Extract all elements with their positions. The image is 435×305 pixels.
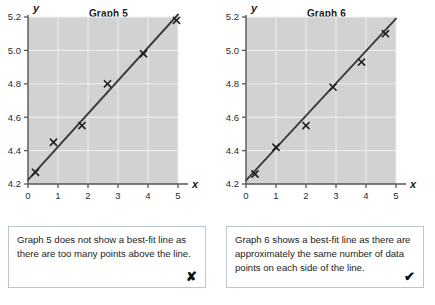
x-tick-label: 3 [333, 190, 338, 200]
x-axis-label: x [191, 178, 199, 190]
x-tick-label: 1 [55, 190, 60, 200]
x-tick-label: 0 [25, 190, 30, 200]
x-axis-label: x [409, 178, 417, 190]
y-tick-label: 4.2 [226, 178, 239, 189]
graph-5-caption-text: Graph 5 does not show a best-fit line as… [17, 233, 197, 261]
x-tick-label: 2 [303, 190, 308, 200]
x-tick-label: 2 [85, 190, 90, 200]
graph-6-chart: 4.24.44.64.85.05.2012345yx [218, 0, 435, 200]
x-tick-label: 1 [273, 190, 278, 200]
worksheet-page: Graph 5 4.24.44.64.85.05.2012345yx Graph… [0, 0, 435, 305]
graph-6-caption: Graph 6 shows a best-fit line as there a… [226, 226, 424, 288]
y-tick-label: 4.4 [226, 145, 239, 156]
graph-6-svg: 4.24.44.64.85.05.2012345yx [218, 0, 435, 200]
graph-5-svg: 4.24.44.64.85.05.2012345yx [0, 0, 217, 200]
x-tick-label: 4 [363, 190, 368, 200]
graph-5-caption: Graph 5 does not show a best-fit line as… [8, 226, 206, 288]
y-axis-label: y [32, 2, 40, 14]
y-tick-label: 4.8 [226, 78, 239, 89]
y-tick-label: 5.2 [226, 11, 239, 22]
y-tick-label: 5.0 [8, 45, 21, 56]
y-tick-label: 4.6 [226, 112, 239, 123]
plot-area [28, 17, 178, 184]
graph-5-chart: 4.24.44.64.85.05.2012345yx [0, 0, 217, 200]
graph-panel-6: Graph 6 4.24.44.64.85.05.2012345yx Graph… [218, 0, 435, 305]
graph-6-caption-text: Graph 6 shows a best-fit line as there a… [235, 233, 415, 276]
y-tick-label: 4.4 [8, 145, 21, 156]
x-tick-label: 0 [243, 190, 248, 200]
x-tick-label: 5 [393, 190, 398, 200]
x-tick-label: 3 [115, 190, 120, 200]
x-tick-label: 4 [145, 190, 150, 200]
y-tick-label: 4.6 [8, 112, 21, 123]
y-axis-label: y [250, 2, 258, 14]
cross-mark-icon: ✘ [186, 270, 197, 283]
y-tick-label: 5.0 [226, 45, 239, 56]
y-tick-label: 4.2 [8, 178, 21, 189]
y-tick-label: 5.2 [8, 11, 21, 22]
y-tick-label: 4.8 [8, 78, 21, 89]
graph-panel-5: Graph 5 4.24.44.64.85.05.2012345yx Graph… [0, 0, 217, 305]
check-mark-icon: ✔ [404, 270, 415, 283]
x-tick-label: 5 [175, 190, 180, 200]
